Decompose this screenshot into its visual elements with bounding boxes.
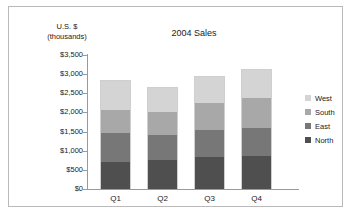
bar-segment-west[interactable]	[194, 76, 225, 103]
x-axis-tick-label: Q1	[91, 194, 141, 203]
legend-item-north[interactable]: North	[305, 133, 353, 147]
legend-swatch-icon	[305, 137, 311, 143]
chart-legend: WestSouthEastNorth	[305, 91, 353, 147]
bar-column-q3[interactable]	[194, 76, 225, 189]
bar-segment-west[interactable]	[100, 80, 131, 109]
legend-swatch-icon	[305, 95, 311, 101]
legend-item-south[interactable]: South	[305, 105, 353, 119]
bar-segment-west[interactable]	[147, 87, 178, 111]
legend-label: South	[315, 108, 335, 117]
y-axis-tick-label: $2,500	[39, 88, 83, 97]
bar-segment-south[interactable]	[194, 103, 225, 130]
x-axis-tick-label: Q3	[185, 194, 235, 203]
bar-column-q4[interactable]	[241, 69, 272, 189]
chart-title: 2004 Sales	[129, 28, 259, 38]
chart-frame: 2004 Sales U.S. $ (thousands) $3,500$3,0…	[8, 6, 343, 207]
bar-segment-south[interactable]	[100, 110, 131, 133]
bar-segment-east[interactable]	[241, 128, 272, 157]
legend-swatch-icon	[305, 109, 311, 115]
bar-segment-west[interactable]	[241, 69, 272, 98]
y-axis-tick-label: $3,000	[39, 69, 83, 78]
y-axis-tick-label: $500	[39, 165, 83, 174]
bar-segment-east[interactable]	[194, 130, 225, 158]
bar-column-q2[interactable]	[147, 87, 178, 189]
x-axis-tick-label: Q2	[138, 194, 188, 203]
legend-item-west[interactable]: West	[305, 91, 353, 105]
x-axis-line	[87, 189, 299, 190]
legend-label: East	[315, 122, 330, 131]
y-axis-tick-label: $0	[39, 184, 83, 193]
bar-segment-east[interactable]	[147, 135, 178, 160]
bar-segment-south[interactable]	[147, 112, 178, 136]
y-axis-tick-label: $1,000	[39, 146, 83, 155]
y-axis-tick-label: $2,000	[39, 107, 83, 116]
legend-item-east[interactable]: East	[305, 119, 353, 133]
y-axis-tick-label: $1,500	[39, 127, 83, 136]
bar-column-q1[interactable]	[100, 80, 131, 189]
bar-segment-east[interactable]	[100, 133, 131, 163]
bar-segment-north[interactable]	[241, 156, 272, 189]
legend-label: West	[315, 94, 332, 103]
bar-segment-south[interactable]	[241, 98, 272, 128]
y-axis-tick-label: $3,500	[39, 50, 83, 59]
x-axis-tick-label: Q4	[232, 194, 282, 203]
bar-segment-north[interactable]	[147, 160, 178, 189]
y-axis-tick-labels: $3,500$3,000$2,500$2,000$1,500$1,000$500…	[35, 7, 83, 215]
bar-segment-north[interactable]	[194, 157, 225, 189]
bar-segment-north[interactable]	[100, 162, 131, 189]
plot-area	[88, 55, 288, 189]
y-axis-tick-mark	[83, 189, 88, 190]
legend-swatch-icon	[305, 123, 311, 129]
legend-label: North	[315, 136, 333, 145]
